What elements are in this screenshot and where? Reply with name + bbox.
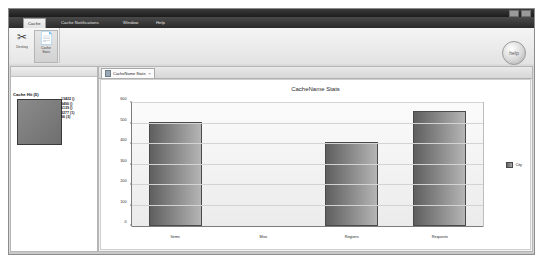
- gridline: [132, 143, 483, 144]
- tab-window[interactable]: Window: [119, 18, 143, 28]
- cache-hit-view-header: [11, 67, 97, 77]
- editor-tab-label: CacheName Stats: [113, 69, 145, 78]
- y-tick-label: 400: [120, 138, 128, 142]
- status-bar: [9, 252, 534, 254]
- legend-label: City: [515, 163, 522, 167]
- tab-cache-notifications[interactable]: Cache Notifications: [57, 18, 103, 28]
- tab-cache[interactable]: Cache: [23, 18, 46, 28]
- bar[interactable]: [413, 111, 466, 226]
- tab-cachename-stats[interactable]: CacheName Stats ×: [101, 68, 155, 78]
- legend-swatch: [506, 162, 513, 168]
- tab-help[interactable]: Help: [152, 18, 169, 28]
- x-axis-labels: ItemsMissRegionsRequests: [131, 235, 484, 239]
- cache-hit-view-title: Cache Hit (5): [13, 92, 39, 97]
- gridline: [132, 164, 483, 165]
- y-tick-label: 0: [124, 220, 128, 224]
- pie-chart-block: [17, 99, 62, 145]
- plot-area: 0100200300400500600: [131, 102, 484, 227]
- gridline: [132, 184, 483, 185]
- ribbon-tab-strip: Cache Cache Notifications Window Help: [9, 17, 534, 28]
- application-window: Cache Cache Notifications Window Help ✂ …: [8, 8, 535, 255]
- y-tick-label: 600: [120, 97, 128, 101]
- document-icon: 📄: [35, 31, 57, 46]
- ribbon-body: ✂ Destroy 📄 Cache Stats help: [9, 28, 534, 64]
- x-tick-label: Regions: [308, 235, 396, 239]
- chart-icon: [105, 70, 111, 77]
- chart-title: CacheName Stats: [101, 86, 530, 92]
- bar-slot: [308, 103, 396, 226]
- scissors-icon: ✂: [11, 30, 33, 45]
- destroy-button[interactable]: ✂ Destroy: [11, 30, 33, 61]
- editor-area: CacheName Stats × CacheName Stats 010020…: [98, 66, 533, 252]
- x-tick-label: Items: [131, 235, 219, 239]
- gridline: [132, 123, 483, 124]
- window-controls: [509, 10, 531, 17]
- chart-canvas: CacheName Stats 0100200300400500600 Item…: [100, 79, 531, 250]
- x-tick-label: Requests: [396, 235, 484, 239]
- cache-stats-button-label: Cache Stats: [35, 46, 57, 54]
- minimize-icon[interactable]: [509, 10, 519, 17]
- chart-legend: City: [506, 162, 522, 168]
- ribbon-group-cache: ✂ Destroy 📄 Cache Stats: [11, 28, 60, 63]
- bar-series: [132, 103, 483, 226]
- cache-stats-button[interactable]: 📄 Cache Stats: [34, 30, 58, 63]
- bar-slot: [395, 103, 483, 226]
- y-tick-mark: [130, 122, 132, 123]
- y-tick-label: 200: [120, 179, 128, 183]
- help-circle-icon[interactable]: help: [502, 41, 526, 65]
- gridline: [132, 102, 483, 103]
- y-tick-mark: [130, 184, 132, 185]
- y-tick-label: 100: [120, 200, 128, 204]
- y-tick-mark: [130, 143, 132, 144]
- maximize-icon[interactable]: [521, 10, 531, 17]
- destroy-button-label: Destroy: [11, 45, 33, 49]
- y-tick-label: 300: [120, 159, 128, 163]
- ribbon: Cache Cache Notifications Window Help ✂ …: [9, 17, 534, 66]
- screenshot-root: Cache Cache Notifications Window Help ✂ …: [0, 0, 541, 261]
- bar-slot: [220, 103, 308, 226]
- x-axis: [132, 226, 483, 227]
- list-item: 96 (3): [61, 115, 95, 120]
- y-tick-mark: [130, 163, 132, 164]
- y-tick-mark: [130, 225, 132, 226]
- y-tick-label: 500: [120, 118, 128, 122]
- bar[interactable]: [149, 122, 202, 227]
- editor-tab-strip: CacheName Stats ×: [99, 67, 532, 79]
- window-title-bar: [9, 9, 534, 17]
- y-tick-mark: [130, 204, 132, 205]
- x-tick-label: Miss: [219, 235, 307, 239]
- close-icon[interactable]: ×: [148, 69, 150, 78]
- cache-hit-legend: 13422 () 9490 () 6139 () 3277 (1) 96 (3): [61, 97, 95, 120]
- workbench: Cache Hit (5) 13422 () 9490 () 6139 () 3…: [9, 65, 534, 254]
- cache-hit-view: Cache Hit (5) 13422 () 9490 () 6139 () 3…: [10, 66, 98, 252]
- bar-slot: [132, 103, 220, 226]
- gridline: [132, 205, 483, 206]
- y-tick-mark: [130, 102, 132, 103]
